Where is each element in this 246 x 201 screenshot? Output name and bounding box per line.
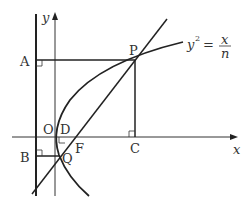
point-C-label: C: [130, 141, 140, 156]
svg-text:y: y: [186, 37, 195, 52]
svg-text:2: 2: [195, 34, 200, 43]
right-angle-C: [129, 131, 135, 137]
svg-text:=: =: [203, 37, 214, 52]
focal-chord-line: [32, 19, 167, 194]
point-O-label: O: [43, 122, 54, 137]
diagram-canvas: y x A P O D F B Q C y 2 = x n: [0, 0, 246, 201]
parabola-diagram: y x A P O D F B Q C y 2 = x n: [0, 0, 246, 201]
point-P-label: P: [129, 43, 138, 58]
svg-text:n: n: [221, 46, 229, 61]
svg-text:x: x: [221, 32, 229, 47]
point-Q-label: Q: [62, 151, 73, 166]
y-axis-label: y: [41, 10, 50, 25]
point-A-label: A: [19, 54, 30, 69]
point-F-label: F: [75, 141, 84, 156]
right-angle-D: [59, 137, 65, 143]
parabola-curve: [56, 42, 183, 196]
x-axis-label: x: [233, 142, 241, 157]
point-B-label: B: [20, 150, 30, 165]
parabola-equation: y 2 = x n: [186, 32, 231, 61]
point-D-label: D: [60, 122, 70, 137]
